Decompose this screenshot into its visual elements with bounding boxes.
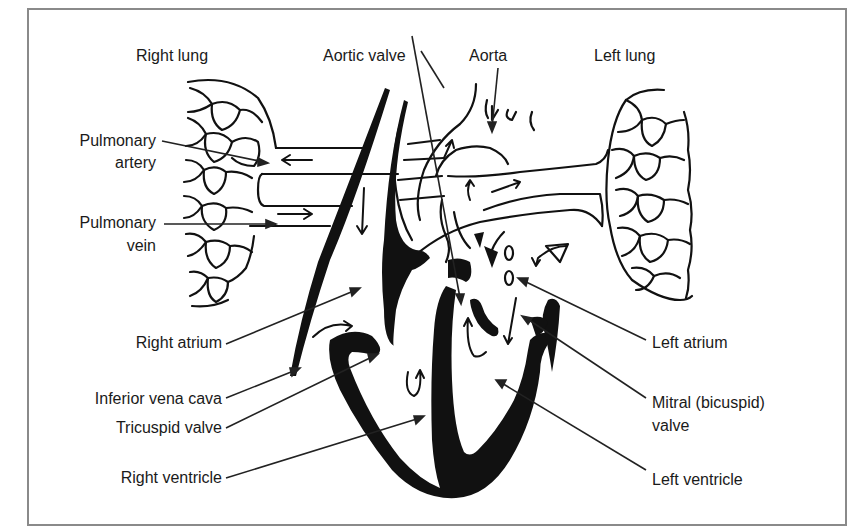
label-pulmonary-vein-line2: vein [40, 236, 156, 255]
label-aortic-valve: Aortic valve [323, 46, 406, 65]
label-mitral-valve-line1: Mitral (bicuspid) [652, 393, 765, 412]
label-pulmonary-vein-line1: Pulmonary [40, 213, 156, 232]
label-right-ventricle: Right ventricle [40, 468, 222, 487]
label-right-lung: Right lung [136, 46, 208, 65]
label-left-atrium: Left atrium [652, 333, 728, 352]
label-aorta: Aorta [469, 46, 507, 65]
left-lung-icon [606, 90, 692, 300]
label-left-ventricle: Left ventricle [652, 470, 743, 489]
heart-walls [290, 88, 560, 498]
label-left-lung: Left lung [594, 46, 655, 65]
right-lung-icon [184, 80, 276, 306]
label-pulmonary-artery-line1: Pulmonary [40, 131, 156, 150]
label-pulmonary-artery-line2: artery [40, 153, 156, 172]
label-mitral-valve-line2: valve [652, 416, 689, 435]
label-inferior-vena-cava: Inferior vena cava [40, 389, 222, 408]
label-right-atrium: Right atrium [40, 333, 222, 352]
label-tricuspid-valve: Tricuspid valve [40, 418, 222, 437]
